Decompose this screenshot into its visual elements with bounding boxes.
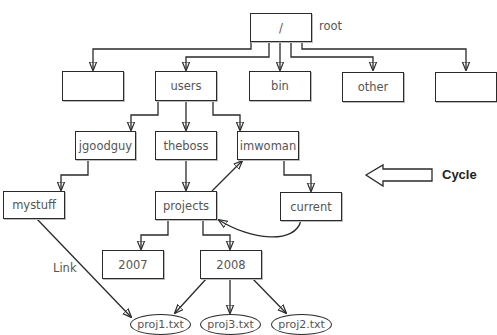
node-other: other [342,72,404,102]
node-label: current [290,200,332,214]
edge-users-imwoman [213,100,240,130]
node-label: theboss [163,139,208,153]
node-root: / [250,13,312,42]
node-label: projects [163,199,209,213]
edge-projects-imwoman [212,161,242,191]
edge-jgoodguy-mystuff [61,160,88,190]
node-2008: 2008 [200,250,262,279]
edge-root-unnamed-left [93,41,251,70]
node-unnamed-right [435,72,497,102]
link-label: Link [53,261,77,275]
cycle-label: Cycle [442,167,477,182]
file-proj1: proj1.txt [130,314,191,335]
node-bin: bin [249,71,311,101]
node-label: 2007 [118,258,147,272]
edge-2008-proj2 [252,278,286,313]
edge-root-other [291,41,373,70]
node-label: imwoman [240,139,296,153]
node-jgoodguy: jgoodguy [75,131,136,160]
node-label: mystuff [12,198,56,212]
node-theboss: theboss [155,131,217,160]
node-label: users [170,79,201,93]
node-unnamed-left [62,71,124,101]
node-users: users [155,71,217,101]
edge-projects-2007 [141,219,168,249]
file-label: proj3.txt [207,318,254,331]
edge-users-jgoodguy [131,100,158,130]
edge-current-projects [219,220,301,237]
node-label: 2008 [216,258,245,272]
edge-root-unnamed-right [302,41,466,70]
edge-imwoman-current [284,160,311,191]
node-label: other [358,80,389,94]
file-label: proj1.txt [137,318,184,331]
file-label: proj2.txt [278,318,325,331]
edge-2008-proj1 [175,278,207,313]
node-current: current [280,192,342,221]
file-proj3: proj3.txt [200,314,261,335]
node-label: / [279,21,283,35]
file-proj2: proj2.txt [271,314,332,335]
node-projects: projects [155,191,217,220]
root-annotation: root [319,19,342,33]
node-label: bin [271,79,289,93]
node-imwoman: imwoman [237,131,299,160]
edge-root-users [186,41,269,70]
node-label: jgoodguy [79,139,132,153]
cycle-arrow-icon [366,165,432,186]
node-mystuff: mystuff [3,191,65,219]
node-2007: 2007 [102,250,164,279]
